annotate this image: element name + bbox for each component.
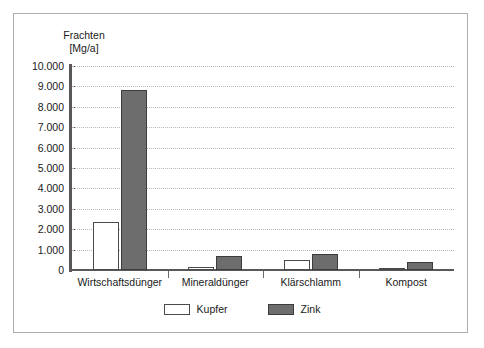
x-axis-label-3: Kompost: [386, 276, 427, 288]
legend-label-zink: Zink: [301, 303, 321, 315]
bar-zink-2: [312, 254, 338, 270]
bar-kupfer-2: [284, 260, 310, 270]
legend-item-kupfer: Kupfer: [164, 303, 228, 315]
y-axis-tick-label: 0: [8, 264, 64, 276]
y-axis-tick-labels: 01.0002.0003.0004.0005.0006.0007.0008.00…: [6, 66, 64, 270]
y-axis-tick-label: 3.000: [8, 203, 64, 215]
y-axis-tick-label: 8.000: [8, 101, 64, 113]
y-axis-tick-label: 4.000: [8, 182, 64, 194]
gridline: [72, 66, 454, 67]
y-axis-tick-label: 6.000: [8, 142, 64, 154]
chart-figure: Frachten [Mg/a] 01.0002.0003.0004.0005.0…: [0, 0, 484, 348]
y-axis-tick-label: 2.000: [8, 223, 64, 235]
bar-zink-0: [121, 90, 147, 270]
legend-swatch-kupfer: [164, 304, 190, 315]
y-axis-tick-label: 7.000: [8, 121, 64, 133]
legend-item-zink: Zink: [268, 303, 321, 315]
y-axis-tick-label: 10.000: [8, 60, 64, 72]
bar-zink-3: [407, 262, 433, 270]
y-axis-tick-label: 5.000: [8, 162, 64, 174]
legend-label-kupfer: Kupfer: [197, 303, 228, 315]
x-axis-label-0: Wirtschaftsdünger: [77, 276, 162, 288]
x-axis-label-2: Klärschlamm: [280, 276, 341, 288]
chart-legend: KupferZink: [0, 303, 484, 315]
y-axis-tick-label: 9.000: [8, 80, 64, 92]
x-axis-label-1: Mineraldünger: [182, 276, 249, 288]
bar-kupfer-3: [379, 268, 405, 270]
bar-kupfer-0: [93, 222, 119, 270]
y-axis-title: Frachten [Mg/a]: [36, 29, 132, 54]
gridline: [72, 86, 454, 87]
plot-area: [72, 66, 454, 270]
bar-kupfer-1: [188, 267, 214, 270]
y-axis-tick-label: 1.000: [8, 244, 64, 256]
x-axis-category-labels: WirtschaftsdüngerMineraldüngerKlärschlam…: [72, 276, 454, 294]
legend-swatch-zink: [268, 304, 294, 315]
bar-zink-1: [216, 256, 242, 270]
